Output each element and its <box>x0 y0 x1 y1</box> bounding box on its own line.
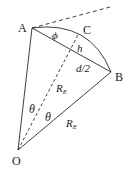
radius-oa <box>18 28 32 150</box>
label-phi: ϕ <box>52 29 58 41</box>
radius-oc-dashed <box>18 33 79 150</box>
label-h: h <box>77 42 83 54</box>
geometry-figure: A C B O ϕ h d/2 RE RE θ θ <box>0 0 132 173</box>
label-half-chord: d/2 <box>76 62 91 74</box>
label-theta-left: θ <box>29 102 35 116</box>
tangent-line <box>32 7 110 28</box>
diagram-canvas: A C B O ϕ h d/2 RE RE θ θ <box>0 0 132 173</box>
label-o: O <box>12 154 21 168</box>
label-a: A <box>18 21 27 35</box>
label-re-ob: RE <box>65 117 78 131</box>
label-re-dashed: RE <box>55 82 68 96</box>
label-theta-right: θ <box>45 110 51 124</box>
label-b: B <box>115 70 123 84</box>
chord-ab <box>32 28 111 72</box>
label-c: C <box>83 23 91 37</box>
